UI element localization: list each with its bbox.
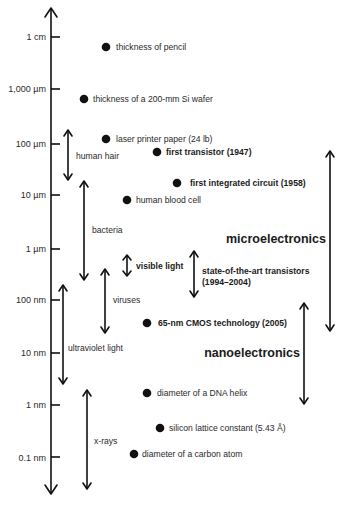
marker-dot bbox=[102, 43, 111, 52]
range-visible-light: visible light bbox=[123, 255, 183, 276]
range-label: bacteria bbox=[92, 225, 123, 235]
marker-dot bbox=[156, 424, 165, 433]
marker-dot bbox=[143, 319, 152, 328]
point-label-first-ic: first integrated circuit (1958) bbox=[190, 178, 306, 188]
point-label-blood-cell: human blood cell bbox=[136, 195, 201, 205]
point-label-first-transistor: first transistor (1947) bbox=[166, 147, 252, 157]
marker-dot bbox=[173, 179, 182, 188]
range-label: viruses bbox=[113, 295, 140, 305]
tick-label: 1 cm bbox=[26, 32, 46, 42]
range-viruses: viruses bbox=[101, 269, 140, 333]
main-axis bbox=[45, 8, 57, 494]
point-label-silicon: silicon lattice constant (5.43 Å) bbox=[169, 423, 286, 433]
range-label: human hair bbox=[76, 151, 119, 161]
tick-label: 0.1 nm bbox=[18, 453, 46, 463]
range-label: visible light bbox=[136, 261, 183, 271]
range-x-rays: x-rays bbox=[83, 390, 117, 489]
marker-dot bbox=[102, 135, 111, 144]
range-label-microelectronics: microelectronics bbox=[226, 232, 326, 246]
range-label: ultraviolet light bbox=[68, 343, 124, 353]
range-label-nanoelectronics: nanoelectronics bbox=[204, 346, 300, 360]
tick-label: 1,000 µm bbox=[8, 84, 46, 94]
tick-label: 1 µm bbox=[26, 244, 46, 254]
tick-label: 100 nm bbox=[16, 295, 46, 305]
range-label: x-rays bbox=[94, 436, 117, 446]
marker-dot bbox=[80, 95, 89, 104]
range-label-line-2: (1994–2004) bbox=[202, 277, 251, 287]
marker-dot bbox=[153, 148, 162, 157]
point-label-dna: diameter of a DNA helix bbox=[157, 388, 248, 398]
range-bacteria: bacteria bbox=[80, 181, 123, 280]
marker-dot bbox=[123, 196, 132, 205]
range-state-of-the-art-transistors: state-of-the-art transistors (1994–2004) bbox=[190, 251, 310, 297]
tick-label: 10 nm bbox=[21, 348, 46, 358]
range-human-hair: human hair bbox=[64, 130, 119, 180]
axis-ticks: 1 cm 1,000 µm 100 µm 10 µm 1 µm 100 nm 1… bbox=[8, 32, 60, 463]
point-label-65nm: 65-nm CMOS technology (2005) bbox=[158, 318, 287, 328]
marker-dot bbox=[143, 389, 152, 398]
tick-label: 1 nm bbox=[26, 400, 46, 410]
point-label-wafer: thickness of a 200-mm Si wafer bbox=[93, 94, 213, 104]
point-label-pencil: thickness of pencil bbox=[116, 42, 186, 52]
marker-dot bbox=[130, 450, 139, 459]
tick-label: 10 µm bbox=[21, 190, 46, 200]
point-label-paper: laser printer paper (24 lb) bbox=[116, 134, 213, 144]
range-label-line-1: state-of-the-art transistors bbox=[202, 266, 310, 276]
point-label-carbon: diameter of a carbon atom bbox=[142, 449, 242, 459]
point-markers: thickness of pencil thickness of a 200-m… bbox=[80, 42, 306, 459]
size-scale-diagram: 1 cm 1,000 µm 100 µm 10 µm 1 µm 100 nm 1… bbox=[0, 0, 348, 506]
tick-label: 100 µm bbox=[16, 139, 46, 149]
